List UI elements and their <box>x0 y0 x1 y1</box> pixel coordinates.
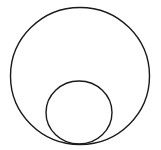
diagram-canvas <box>0 0 161 150</box>
tangent-circles-diagram <box>0 0 161 150</box>
inner-circle <box>46 81 112 144</box>
outer-circle <box>11 8 150 145</box>
